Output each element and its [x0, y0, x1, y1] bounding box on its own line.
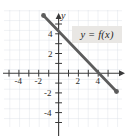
- function-endpoint-right-dot: [114, 89, 119, 94]
- y-tick-label-neg2: -2: [44, 89, 52, 98]
- x-tick-label-neg4: -4: [15, 77, 23, 86]
- y-tick-label-2: 2: [48, 50, 53, 59]
- graph-figure: y -4 -2 2 4 4 2 -2 -4 y = f(x): [0, 0, 126, 140]
- y-tick-label-4: 4: [48, 30, 53, 39]
- function-label-text: y = f(x): [80, 29, 113, 40]
- x-tick-label-neg2: -2: [35, 77, 43, 86]
- x-tick-label-4: 4: [96, 77, 101, 86]
- function-label-box: y = f(x): [72, 26, 122, 43]
- function-endpoint-left-dot: [41, 13, 46, 18]
- y-axis-name-label: y: [61, 11, 65, 21]
- y-tick-label-neg4: -4: [44, 109, 52, 118]
- coordinate-plane-svg: [0, 0, 126, 140]
- x-tick-label-2: 2: [76, 77, 81, 86]
